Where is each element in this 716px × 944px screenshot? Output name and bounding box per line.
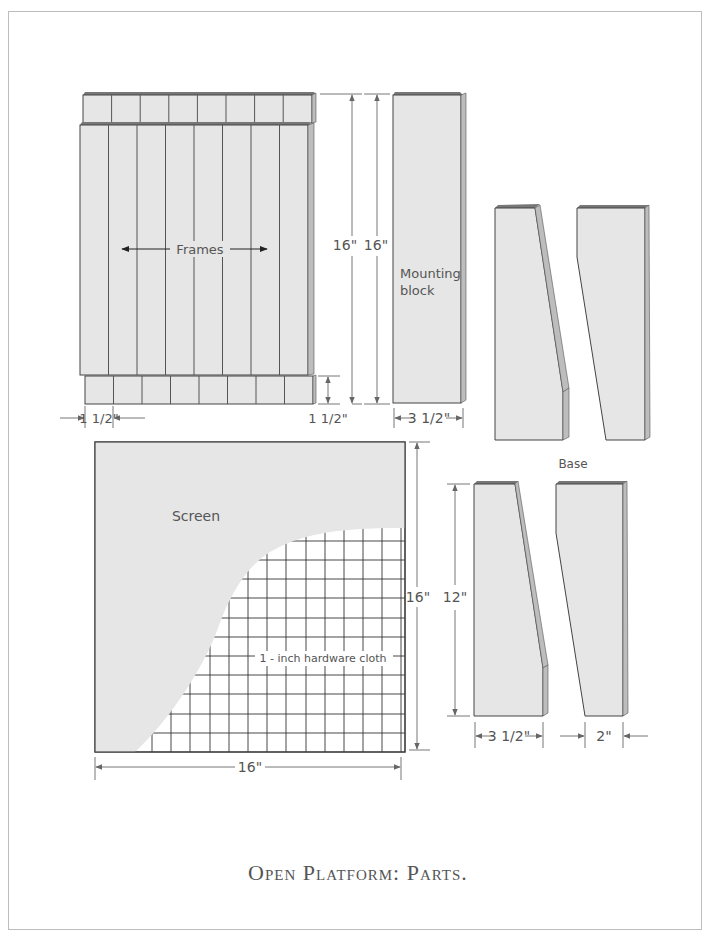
mounting-block-label-1: Mounting — [400, 266, 461, 281]
top-rail — [83, 92, 316, 123]
frame-height-dim-inner: 16" — [333, 237, 357, 253]
base-left-width-label: 3 1/2" — [488, 728, 530, 744]
mounting-block-width-label: 3 1/2" — [408, 410, 450, 426]
frames-label: Frames — [176, 242, 224, 257]
mounting-block: Mounting block 3 1/2" — [393, 92, 466, 428]
bottom-rail-dimension — [318, 376, 340, 404]
bottom-rail — [85, 375, 316, 404]
screen-height-label: 16" — [406, 589, 430, 605]
parts-diagram: Frames 1 1/2" 1 1/2" 16" — [0, 0, 716, 944]
base-pieces-upper: Base — [495, 204, 650, 471]
frame-height-dim-outer: 16" — [364, 237, 388, 253]
frames-panel: Frames 1 1/2" 1 1/2" 16" — [60, 92, 390, 428]
hardware-cloth-label: 1 - inch hardware cloth — [260, 652, 387, 665]
mounting-block-label-2: block — [400, 283, 435, 298]
bottom-rail-dim-label: 1 1/2" — [308, 411, 347, 426]
screen-panel: Screen 1 - inch hardware cloth 16" 16" — [95, 442, 430, 780]
base-label: Base — [558, 457, 587, 471]
screen-label: Screen — [172, 508, 220, 524]
base-pieces-lower: 12" 3 1/2" 2" — [443, 481, 648, 748]
frame-width-dim-label: 1 1/2" — [79, 411, 118, 426]
base-right-width-label: 2" — [596, 728, 611, 744]
screen-width-label: 16" — [238, 759, 262, 775]
base-height-dim-label: 12" — [443, 589, 467, 605]
figure-caption: Open Platform: Parts. — [0, 860, 716, 886]
